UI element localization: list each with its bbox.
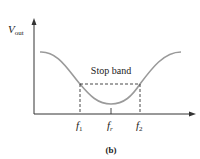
- tick-label-f2-subscript: 2: [139, 125, 143, 133]
- tick-label-fr: fr: [107, 119, 113, 133]
- tick-label-f1-subscript: 1: [79, 125, 83, 133]
- response-curve: [40, 52, 181, 104]
- x-axis-arrow-icon: [189, 112, 196, 117]
- y-axis-arrow-icon: [32, 18, 37, 25]
- x-axis: [34, 112, 196, 117]
- stop-band-markers: [80, 84, 140, 114]
- y-axis-label: Vout: [8, 23, 24, 37]
- tick-label-fr-subscript: r: [110, 125, 113, 133]
- y-axis-label-subscript: out: [15, 29, 24, 37]
- band-stop-response-diagram: Vout Stop band f1 fr f2 (b): [0, 0, 200, 159]
- tick-label-f1: f1: [76, 119, 83, 133]
- figure-caption: (b): [106, 145, 117, 155]
- y-axis: [32, 18, 37, 114]
- stop-band-label: Stop band: [91, 65, 131, 76]
- tick-label-f2: f2: [136, 119, 143, 133]
